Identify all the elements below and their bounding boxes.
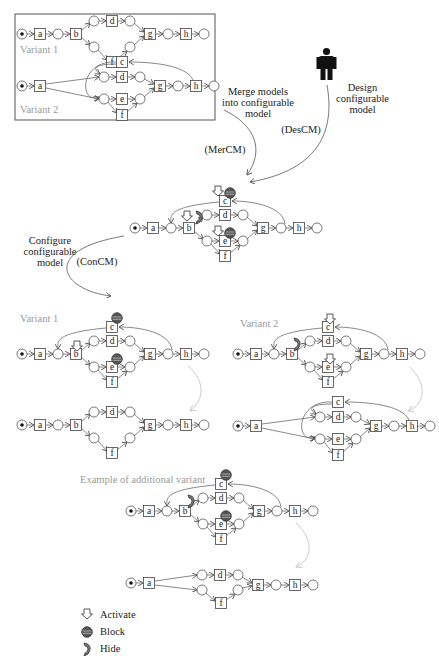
place bbox=[269, 349, 279, 359]
activate-icon bbox=[213, 226, 224, 236]
place bbox=[163, 420, 173, 430]
svg-text:h: h bbox=[410, 421, 415, 431]
svg-text:h: h bbox=[297, 223, 302, 233]
block-icon bbox=[221, 470, 232, 481]
place bbox=[305, 362, 315, 372]
svg-text:e: e bbox=[110, 362, 114, 372]
svg-text:g: g bbox=[256, 580, 261, 590]
merge-arrow bbox=[224, 110, 256, 175]
place bbox=[89, 362, 99, 372]
place bbox=[425, 421, 435, 431]
svg-text:d: d bbox=[110, 336, 115, 346]
svg-text:d: d bbox=[326, 336, 331, 346]
place bbox=[197, 585, 207, 595]
place bbox=[53, 420, 63, 430]
place bbox=[166, 223, 176, 233]
token bbox=[20, 352, 24, 356]
variant2-derive-arrow bbox=[408, 367, 422, 411]
merge-step-code: (MerCM) bbox=[200, 144, 250, 155]
svg-text:g: g bbox=[148, 349, 153, 359]
configured-variant1-label: Variant 1 bbox=[20, 313, 58, 324]
variant1-derive-arrow bbox=[188, 366, 201, 411]
svg-text:e: e bbox=[223, 236, 227, 246]
hide-icon bbox=[80, 642, 94, 656]
svg-text:g: g bbox=[148, 29, 153, 39]
token bbox=[133, 226, 137, 230]
place bbox=[341, 336, 351, 346]
token bbox=[236, 352, 240, 356]
place bbox=[89, 336, 99, 346]
svg-text:d: d bbox=[336, 412, 341, 422]
place bbox=[202, 236, 212, 246]
svg-text:d: d bbox=[218, 570, 223, 580]
place bbox=[125, 42, 135, 52]
svg-text:e: e bbox=[336, 434, 340, 444]
svg-text:h: h bbox=[400, 349, 405, 359]
place bbox=[89, 16, 99, 26]
svg-text:d: d bbox=[110, 16, 115, 26]
svg-text:d: d bbox=[223, 210, 228, 220]
place bbox=[389, 421, 399, 431]
svg-text:h: h bbox=[194, 81, 199, 91]
svg-text:c: c bbox=[223, 196, 227, 206]
place bbox=[173, 81, 183, 91]
top-variant2-label: Variant 2 bbox=[20, 104, 58, 115]
place bbox=[351, 434, 361, 444]
place bbox=[341, 362, 351, 372]
place bbox=[308, 506, 318, 516]
place bbox=[125, 433, 135, 443]
svg-text:b: b bbox=[187, 223, 192, 233]
variant-2-result: adefghc bbox=[233, 397, 435, 461]
place bbox=[163, 349, 173, 359]
token bbox=[129, 509, 133, 513]
svg-text:c: c bbox=[219, 479, 223, 489]
place bbox=[351, 412, 361, 422]
place bbox=[271, 580, 281, 590]
svg-text:g: g bbox=[261, 223, 266, 233]
block-icon bbox=[112, 313, 123, 324]
svg-text:c: c bbox=[336, 397, 340, 407]
activate-icon bbox=[182, 211, 193, 221]
design-step-label: Design configurable model bbox=[325, 82, 400, 115]
token bbox=[20, 32, 24, 36]
block-icon bbox=[225, 188, 236, 199]
place bbox=[415, 349, 425, 359]
svg-text:c: c bbox=[110, 322, 114, 332]
place bbox=[99, 72, 109, 82]
top-variant1-label: Variant 1 bbox=[20, 44, 58, 55]
svg-text:d: d bbox=[110, 407, 115, 417]
design-step-code: (DesCM) bbox=[276, 124, 326, 135]
block-icon bbox=[80, 625, 94, 639]
svg-text:e: e bbox=[120, 94, 124, 104]
configured-variant2-label: Variant 2 bbox=[240, 318, 278, 329]
place bbox=[379, 349, 389, 359]
place bbox=[315, 434, 325, 444]
place bbox=[163, 29, 173, 39]
place bbox=[233, 585, 243, 595]
block-icon bbox=[225, 228, 236, 239]
variant-1-result: abdfgh bbox=[17, 407, 209, 459]
place bbox=[99, 94, 109, 104]
place bbox=[199, 29, 209, 39]
place bbox=[197, 570, 207, 580]
place bbox=[312, 223, 322, 233]
configurable-model: abdefghc bbox=[130, 186, 322, 262]
designer-person-icon bbox=[317, 48, 337, 80]
additional-variant-result: adfgh bbox=[126, 570, 318, 609]
place bbox=[198, 493, 208, 503]
place bbox=[89, 42, 99, 52]
place bbox=[315, 412, 325, 422]
svg-text:g: g bbox=[364, 349, 369, 359]
svg-text:g: g bbox=[257, 506, 262, 516]
additional-variant-label: Example of additional variant bbox=[80, 474, 205, 485]
original-variant-1: abdfgh bbox=[17, 16, 209, 68]
place bbox=[89, 407, 99, 417]
svg-text:e: e bbox=[219, 519, 223, 529]
configure-step-code: (ConCM) bbox=[72, 256, 122, 267]
place bbox=[276, 223, 286, 233]
place bbox=[125, 16, 135, 26]
additional-derive-arrow bbox=[296, 523, 309, 567]
svg-text:b: b bbox=[74, 420, 79, 430]
place bbox=[234, 519, 244, 529]
svg-text:c: c bbox=[120, 57, 124, 67]
